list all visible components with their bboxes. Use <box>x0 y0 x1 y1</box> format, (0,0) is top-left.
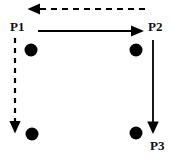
node-bottom-left <box>26 128 39 141</box>
arrow-p1-to-p2-head <box>131 26 144 37</box>
label-p3: P3 <box>150 139 164 152</box>
arrow-top-dashed-left <box>28 4 146 15</box>
arrow-left-dashed-down <box>9 38 20 134</box>
label-p1: P1 <box>10 20 24 33</box>
label-p2: P2 <box>148 20 162 33</box>
node-top-left <box>25 44 38 57</box>
node-top-right <box>130 44 143 57</box>
arrow-p2-to-p3-solid-down <box>147 40 159 134</box>
arrow-p2-to-p3-head <box>147 122 159 135</box>
node-bottom-right <box>130 127 143 140</box>
arrow-top-dashed-left-head <box>28 4 41 15</box>
arrow-left-dashed-down-head <box>9 121 20 134</box>
arrow-p1-to-p2-solid-right <box>38 26 144 37</box>
diagram-canvas: P1 P2 P3 <box>0 0 173 159</box>
